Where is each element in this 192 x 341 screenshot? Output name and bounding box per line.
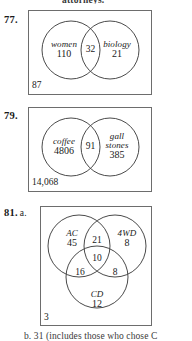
region-count-4wd: 8 (118, 238, 137, 249)
region-label-ac: AC 45 (66, 229, 78, 249)
region-label-4wd: 4WD 8 (118, 229, 137, 249)
region-count-ac-cd-only: 16 (75, 268, 85, 278)
region-count-ac-4wd-only: 21 (92, 236, 102, 246)
bottom-text-fragment: b. 31 (includes those who chose C (24, 331, 192, 341)
region-count-all-three: 10 (92, 254, 102, 264)
region-label-cd: CD 12 (91, 290, 104, 310)
region-count-cd: 12 (91, 299, 104, 310)
region-count-4wd-cd-only: 8 (113, 268, 118, 278)
region-count-ac: 45 (66, 238, 78, 249)
outside-count-81: 3 (44, 312, 49, 322)
answer-key-page: attorneys. 77. women 110 biology 21 32 8… (0, 0, 192, 341)
